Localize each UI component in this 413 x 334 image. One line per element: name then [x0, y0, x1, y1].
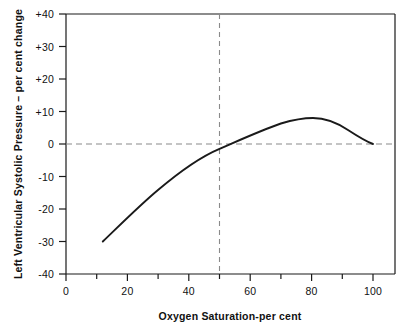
y-label-plus-40: +40	[36, 8, 54, 20]
x-label-80: 80	[306, 285, 318, 297]
x-label-0: 0	[63, 285, 69, 297]
y-label-minus-30: -30	[38, 236, 54, 248]
line-chart-svg: +40 +30 +20 +10 0 -10 -20 -30 -40 0 20 4…	[0, 0, 413, 334]
y-label-plus-30: +30	[36, 41, 54, 53]
y-label-minus-10: -10	[38, 171, 54, 183]
y-label-minus-20: -20	[38, 203, 54, 215]
y-label-plus-10: +10	[36, 106, 54, 118]
y-axis-title: Left Ventricular Systolic Pressure – per…	[12, 9, 24, 279]
x-axis-title: Oxygen Saturation-per cent	[159, 310, 302, 322]
y-label-zero: 0	[48, 138, 54, 150]
x-label-40: 40	[183, 285, 195, 297]
chart-figure: +40 +30 +20 +10 0 -10 -20 -30 -40 0 20 4…	[0, 0, 413, 334]
y-label-plus-20: +20	[36, 73, 54, 85]
x-label-60: 60	[244, 285, 256, 297]
x-label-100: 100	[364, 285, 382, 297]
y-label-minus-40: -40	[38, 268, 54, 280]
x-label-20: 20	[121, 285, 133, 297]
chart-background	[0, 0, 413, 334]
